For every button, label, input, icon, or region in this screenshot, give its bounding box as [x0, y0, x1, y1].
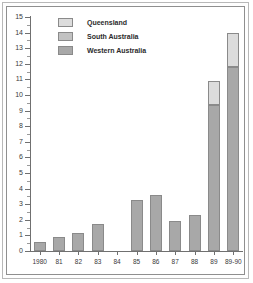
y-tick-label: 9: [0, 107, 23, 114]
bar: [92, 224, 104, 251]
bar-segment: [53, 237, 65, 251]
x-tick: [98, 251, 99, 255]
bar: [208, 81, 220, 251]
y-tick-label-text: 13: [1, 44, 23, 51]
bar: [72, 233, 84, 251]
legend-label: Queensland: [87, 17, 127, 28]
y-tick-label-text: 1: [1, 231, 23, 238]
y-tick-minor: [27, 25, 30, 26]
y-tick-label: 10: [0, 91, 23, 98]
x-tick: [78, 251, 79, 255]
y-tick-major: [25, 157, 30, 158]
y-tick-major: [25, 111, 30, 112]
y-tick-label-text: 12: [1, 60, 23, 67]
y-tick-label-text: 7: [1, 138, 23, 145]
y-tick-label: 13: [0, 44, 23, 51]
bar-segment: [227, 67, 239, 251]
bar: [189, 215, 201, 251]
x-tick: [59, 251, 60, 255]
y-tick-label: 15: [0, 13, 23, 20]
y-tick-minor: [27, 103, 30, 104]
y-tick-label: 5: [0, 169, 23, 176]
y-tick-label-text: 14: [1, 29, 23, 36]
x-tick: [233, 251, 234, 255]
y-tick-label: 8: [0, 122, 23, 129]
y-tick-major: [25, 17, 30, 18]
x-tick: [117, 251, 118, 255]
legend-swatch: [58, 32, 73, 41]
y-tick-minor: [27, 118, 30, 119]
y-tick-label-text: 10: [1, 91, 23, 98]
x-tick: [175, 251, 176, 255]
legend-label: Western Australia: [87, 45, 146, 56]
legend-label: South Australia: [87, 31, 138, 42]
y-tick-label: 7: [0, 138, 23, 145]
x-tick: [214, 251, 215, 255]
y-tick-minor: [27, 243, 30, 244]
y-tick-label: 11: [0, 75, 23, 82]
y-tick-major: [25, 220, 30, 221]
y-tick-label-text: 0: [1, 247, 23, 254]
bar-segment: [92, 224, 104, 251]
y-tick-major: [25, 64, 30, 65]
bar-segment: [150, 195, 162, 251]
y-tick-label: 1: [0, 231, 23, 238]
y-tick-label-text: 6: [1, 153, 23, 160]
y-tick-label-text: 2: [1, 216, 23, 223]
y-tick-minor: [27, 165, 30, 166]
y-tick-major: [25, 33, 30, 34]
bar: [131, 200, 143, 251]
bar-segment: [131, 200, 143, 251]
x-tick-label: 89-90: [217, 258, 249, 266]
y-tick-major: [25, 95, 30, 96]
bar-segment: [34, 242, 46, 251]
y-tick-label: 6: [0, 153, 23, 160]
y-tick-minor: [27, 228, 30, 229]
y-tick-label-text: 9: [1, 107, 23, 114]
y-tick-major: [25, 189, 30, 190]
y-tick-minor: [27, 56, 30, 57]
y-tick-major: [25, 204, 30, 205]
y-tick-label: 3: [0, 200, 23, 207]
y-tick-label: 4: [0, 185, 23, 192]
y-tick-major: [25, 142, 30, 143]
y-tick-major: [25, 79, 30, 80]
y-tick-minor: [27, 150, 30, 151]
y-tick-major: [25, 251, 30, 252]
y-tick-label-text: 4: [1, 185, 23, 192]
bar: [169, 221, 181, 251]
bar-segment: [208, 81, 220, 105]
y-tick-label-text: 11: [1, 75, 23, 82]
y-tick-label-text: 3: [1, 200, 23, 207]
y-tick-major: [25, 235, 30, 236]
y-tick-label-text: 8: [1, 122, 23, 129]
y-tick-minor: [27, 87, 30, 88]
x-tick: [137, 251, 138, 255]
y-tick-minor: [27, 181, 30, 182]
y-tick-label: 0: [0, 247, 23, 254]
y-tick-minor: [27, 40, 30, 41]
legend-swatch: [58, 46, 73, 55]
bar-segment: [227, 33, 239, 67]
bar-chart: 0123456789101112131415 19808182838485868…: [0, 0, 253, 283]
bar: [227, 33, 239, 251]
y-tick-major: [25, 126, 30, 127]
legend-swatch: [58, 18, 73, 27]
y-tick-label: 2: [0, 216, 23, 223]
y-tick-minor: [27, 72, 30, 73]
y-tick-major: [25, 48, 30, 49]
x-tick: [40, 251, 41, 255]
y-tick-label: 12: [0, 60, 23, 67]
y-tick-minor: [27, 134, 30, 135]
y-tick-label-text: 15: [1, 13, 23, 20]
bar: [34, 242, 46, 251]
bar: [53, 237, 65, 251]
bar-segment: [72, 233, 84, 251]
y-tick-label: 14: [0, 29, 23, 36]
y-tick-minor: [27, 196, 30, 197]
x-tick: [195, 251, 196, 255]
bar-segment: [208, 105, 220, 251]
bar: [150, 195, 162, 251]
bar-segment: [169, 221, 181, 251]
x-tick: [156, 251, 157, 255]
